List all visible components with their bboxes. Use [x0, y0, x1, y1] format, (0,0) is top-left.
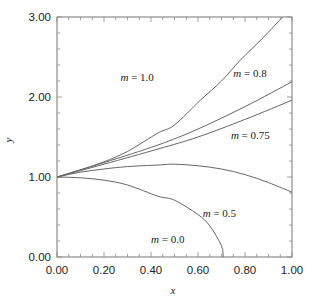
curve-label: m = 0.8 [233, 67, 267, 79]
x-tick-label: 0.60 [187, 264, 209, 276]
curve-line [57, 17, 283, 177]
x-axis-label: x [170, 284, 176, 296]
curve-label: m = 0.75 [231, 129, 270, 141]
y-tick-label: 1.00 [29, 171, 51, 183]
x-tick-label: 1.00 [281, 264, 303, 276]
curve-label: m = 1.0 [120, 71, 154, 83]
y-axis-label: y [2, 137, 14, 143]
line-chart: 0.000.200.400.600.801.00 0.001.002.003.0… [0, 0, 313, 302]
x-tick-label: 0.80 [234, 264, 256, 276]
x-tick-label: 0.40 [140, 264, 162, 276]
y-tick-label: 2.00 [29, 91, 51, 103]
x-tick-labels: 0.000.200.400.600.801.00 [46, 264, 303, 276]
x-tick-label: 0.00 [46, 264, 68, 276]
y-tick-label: 0.00 [29, 251, 51, 263]
x-tick-label: 0.20 [93, 264, 115, 276]
curve-label: m = 0.0 [151, 233, 185, 245]
y-tick-label: 3.00 [29, 11, 51, 23]
curve-line [57, 177, 223, 257]
curve-line [57, 164, 292, 192]
curve-label: m = 0.5 [203, 207, 237, 219]
curve-labels: m = 1.0m = 0.8m = 0.75m = 0.5m = 0.0 [120, 67, 270, 245]
y-tick-labels: 0.001.002.003.00 [29, 11, 51, 263]
